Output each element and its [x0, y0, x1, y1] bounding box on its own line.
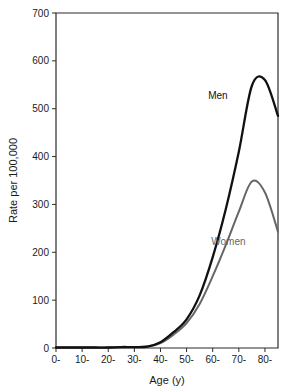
- x-tick-label: 80-: [258, 354, 272, 365]
- y-tick-label: 0: [43, 343, 49, 354]
- chart-figure: 0100200300400500600700 0-10-20-30-40-50-…: [0, 0, 294, 392]
- x-tick-label: 60-: [205, 354, 219, 365]
- y-tick-label: 600: [32, 55, 49, 66]
- x-tick-label: 50-: [179, 354, 193, 365]
- series-label-men: Men: [208, 90, 227, 101]
- y-axis-tick-labels: 0100200300400500600700: [32, 8, 49, 354]
- x-tick-label: 70-: [232, 354, 246, 365]
- y-tick-label: 300: [32, 199, 49, 210]
- x-tick-label: 0-: [52, 354, 61, 365]
- x-tick-label: 40-: [153, 354, 167, 365]
- x-axis-tick-labels: 0-10-20-30-40-50-60-70-80-: [52, 354, 273, 365]
- x-tick-label: 30-: [127, 354, 141, 365]
- y-tick-label: 700: [32, 8, 49, 19]
- y-tick-label: 500: [32, 103, 49, 114]
- plot-axis-frame: [56, 13, 278, 348]
- x-tick-label: 10-: [75, 354, 89, 365]
- data-series-women: [56, 181, 278, 348]
- y-tick-label: 200: [32, 247, 49, 258]
- data-series-men: [56, 76, 278, 347]
- x-tick-label: 20-: [101, 354, 115, 365]
- x-axis-title: Age (y): [149, 374, 184, 386]
- y-tick-label: 100: [32, 295, 49, 306]
- y-axis-title: Rate per 100,000: [7, 138, 19, 223]
- line-chart-svg: 0100200300400500600700 0-10-20-30-40-50-…: [0, 0, 294, 392]
- y-tick-label: 400: [32, 151, 49, 162]
- series-label-women: Women: [211, 236, 245, 247]
